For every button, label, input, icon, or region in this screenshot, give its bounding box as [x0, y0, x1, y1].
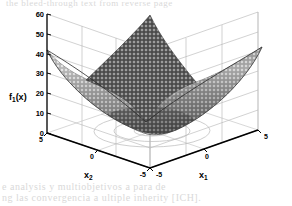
- x2-axis-title: x2: [84, 170, 93, 181]
- z-tick-label-50: 50: [36, 30, 44, 39]
- z-tick-label-40: 40: [36, 50, 44, 59]
- z-tick-label-60: 60: [36, 10, 44, 19]
- svg-text:x2: x2: [84, 170, 93, 181]
- x2-tick-label-0: 0: [90, 153, 94, 160]
- svg-text:f1(x): f1(x): [9, 92, 27, 103]
- x1-tick-label-minus5: -5: [156, 171, 162, 178]
- x1-tick-label-0: 0: [205, 153, 209, 160]
- z-tick-label-20: 20: [36, 89, 44, 98]
- x1-axis-title-subscript: 1: [204, 174, 208, 181]
- x1-axis-title: x1: [199, 170, 208, 181]
- x2-tick-label-minus5: -5: [140, 171, 146, 178]
- z-tick-label-10: 10: [36, 109, 44, 118]
- z-tick-label-30: 30: [36, 69, 44, 78]
- z-axis-title: f1(x): [9, 92, 27, 103]
- x2-tick-label-5: 5: [39, 136, 43, 143]
- z-axis-title-suffix: (x): [16, 92, 27, 102]
- svg-text:x1: x1: [199, 170, 208, 181]
- surface-plot-figure: 0 10 20 30 40 50 60 f1(x) 5 0 -5 x2: [0, 0, 292, 206]
- x1-tick-label-5: 5: [264, 133, 268, 140]
- x2-axis-title-subscript: 2: [89, 174, 93, 181]
